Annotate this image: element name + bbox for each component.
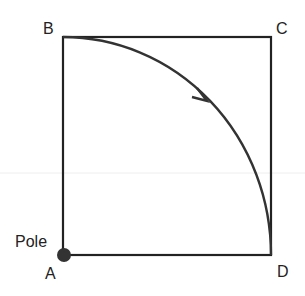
label-d: D xyxy=(277,263,289,280)
label-c: C xyxy=(276,20,288,37)
label-pole: Pole xyxy=(15,233,47,250)
pole-dot xyxy=(57,248,71,262)
arc-b-to-d xyxy=(63,37,271,255)
square-arc-diagram: B C Pole A D xyxy=(0,0,305,296)
label-b: B xyxy=(43,20,54,37)
square-abcd xyxy=(63,37,271,255)
label-a: A xyxy=(45,265,56,282)
